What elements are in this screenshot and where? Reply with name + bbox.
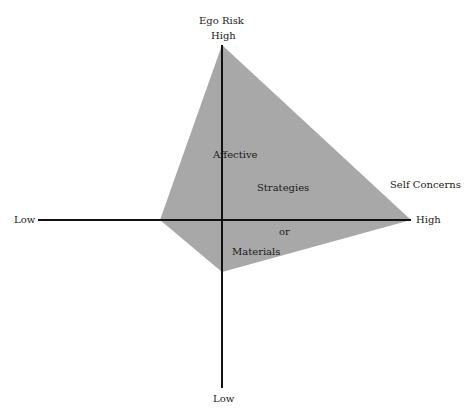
region-label-strategies: Strategies [257, 183, 309, 193]
horizontal-axis-title: Self Concerns [390, 180, 461, 190]
horizontal-axis-low-label: Low [14, 215, 35, 225]
vertical-axis-title: Ego Risk [199, 16, 244, 26]
shaded-region [160, 45, 411, 272]
diagram-canvas [0, 0, 469, 414]
region-label-affective: Affective [213, 150, 257, 160]
region-label-or: or [279, 227, 290, 237]
region-label-materials: Materials [232, 247, 280, 257]
vertical-axis-low-label: Low [213, 394, 234, 404]
vertical-axis-high-label: High [211, 31, 236, 41]
horizontal-axis-high-label: High [416, 215, 441, 225]
